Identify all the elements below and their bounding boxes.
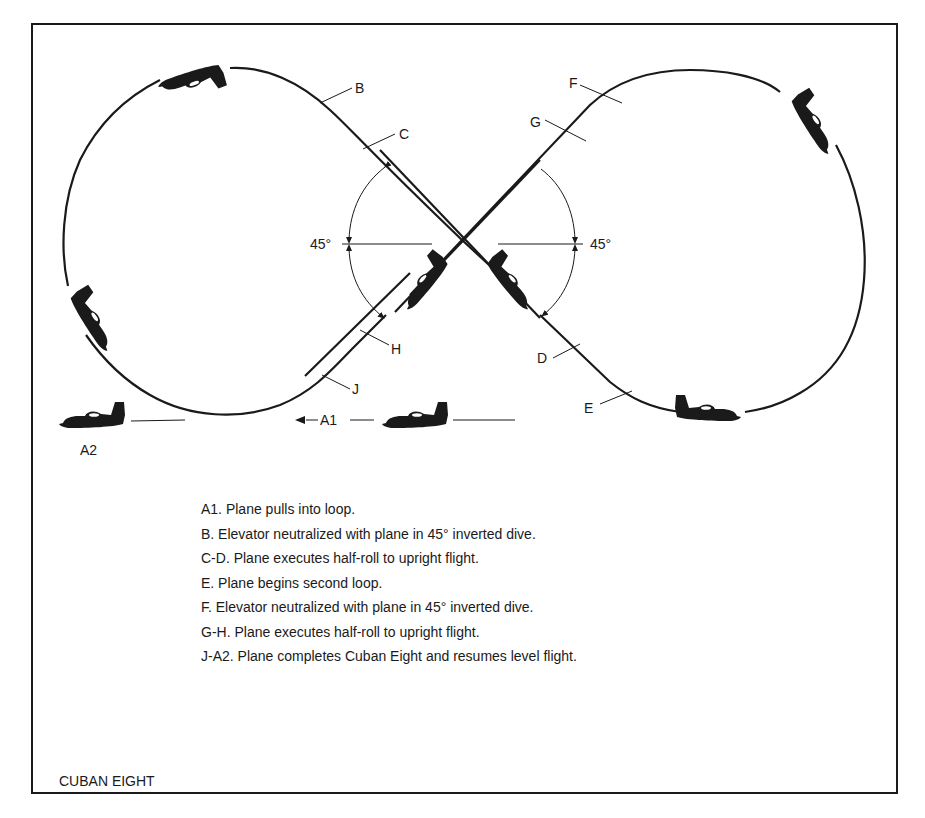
legend-item-f: F. Elevator neutralized with plane in 45… <box>201 595 577 620</box>
plane-center-right-icon <box>483 249 543 312</box>
legend-item-g-h: G-H. Plane executes half-roll to upright… <box>201 620 577 645</box>
level-line-a2 <box>131 420 185 421</box>
legend-item-c-d: C-D. Plane executes half-roll to upright… <box>201 546 577 571</box>
figure-caption: CUBAN EIGHT <box>59 773 155 789</box>
plane-a2-icon <box>59 402 125 428</box>
left-loop-path <box>64 68 462 415</box>
angle-arc-left-lower <box>349 248 384 318</box>
point-label-f: F <box>569 75 578 91</box>
plane-top-left-inverted-icon <box>157 61 228 108</box>
legend-item-b: B. Elevator neutralized with plane in 45… <box>201 522 577 547</box>
cuban-eight-diagram: 45° 45° B C H J F G D E A1 A2 <box>0 0 925 818</box>
legend-item-a1: A1. Plane pulls into loop. <box>201 497 577 522</box>
angle-arc-left-upper <box>349 167 385 240</box>
point-label-a2: A2 <box>80 442 97 458</box>
plane-bottom-right-icon <box>675 395 741 421</box>
plane-left-side-icon <box>66 284 125 353</box>
legend-item-j-a2: J-A2. Plane completes Cuban Eight and re… <box>201 644 577 669</box>
angle-arc-right-lower <box>542 248 575 316</box>
point-label-d: D <box>537 350 547 366</box>
plane-a1-icon <box>382 402 448 428</box>
legend-item-e: E. Plane begins second loop. <box>201 571 577 596</box>
angle-arc-right-upper <box>541 169 575 240</box>
right-loop-path <box>410 70 865 412</box>
direction-arrow-icon <box>295 416 305 424</box>
legend-list: A1. Plane pulls into loop. B. Elevator n… <box>201 497 577 669</box>
point-label-c: C <box>399 126 409 142</box>
point-label-e: E <box>584 400 593 416</box>
point-label-b: B <box>355 80 364 96</box>
point-label-h: H <box>391 341 401 357</box>
plane-center-left-icon <box>391 249 451 312</box>
point-label-j: J <box>352 381 359 397</box>
point-label-a1: A1 <box>320 412 337 428</box>
angle-label-right: 45° <box>590 236 611 252</box>
angle-label-left: 45° <box>310 236 331 252</box>
point-label-g: G <box>530 114 541 130</box>
